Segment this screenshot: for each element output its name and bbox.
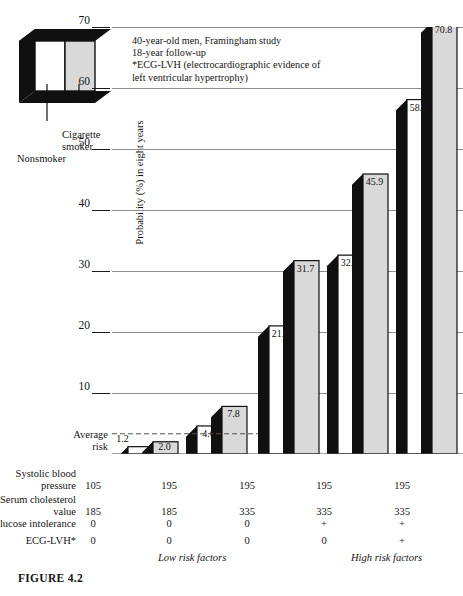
y-tick-rule-20 xyxy=(92,332,110,333)
table-cell-r1-c2: 335 xyxy=(227,506,267,517)
bar-value-nonsmoker-group-1: 1.2 xyxy=(110,433,135,444)
y-tick-rule-50 xyxy=(92,149,110,150)
table-cell-r0-c4: 195 xyxy=(382,480,422,491)
y-tick-label-20: 20 xyxy=(64,319,90,331)
table-cell-r1-c1: 185 xyxy=(149,506,189,517)
average-risk-label-line1: Average xyxy=(56,429,108,441)
table-cell-r0-c3: 195 xyxy=(304,480,344,491)
low-risk-factors-label: Low risk factors xyxy=(158,552,226,563)
y-tick-label-30: 30 xyxy=(64,258,90,270)
y-tick-label-60: 60 xyxy=(64,75,90,87)
bar-value-cigarette-smoker-group-2: 7.8 xyxy=(221,408,246,419)
average-risk-label-line2: risk xyxy=(56,441,108,453)
table-cell-r3-c4: + xyxy=(382,535,422,546)
table-cell-r2-c1: 0 xyxy=(149,518,189,529)
table-cell-r2-c0: 0 xyxy=(73,518,113,529)
table-cell-r3-c0: 0 xyxy=(73,535,113,546)
y-tick-rule-30 xyxy=(92,271,110,272)
table-cell-r1-c3: 335 xyxy=(304,506,344,517)
bar-group-container xyxy=(112,27,463,454)
table-cell-r2-c3: + xyxy=(304,518,344,529)
plot-area: 40-year-old men, Framingham study 18-yea… xyxy=(112,27,463,454)
table-row-label-1: Serum cholesterolvalue xyxy=(0,494,76,518)
y-tick-rule-40 xyxy=(92,210,110,211)
table-row-label-0: Systolic bloodpressure xyxy=(16,468,76,492)
table-cell-r0-c0: 105 xyxy=(73,480,113,491)
bar-value-nonsmoker-group-5: 58.1 xyxy=(406,102,431,113)
y-tick-rule-60 xyxy=(92,88,110,89)
table-cell-r3-c3: 0 xyxy=(304,535,344,546)
table-cell-r2-c4: + xyxy=(382,518,422,529)
bar-value-cigarette-smoker-group-5: 70.8 xyxy=(431,24,456,35)
y-tick-label-40: 40 xyxy=(64,197,90,209)
y-tick-label-10: 10 xyxy=(64,380,90,392)
figure-4-2: Cigarette smoker Nonsmoker 40-year-old m… xyxy=(0,0,463,596)
y-tick-rule-10 xyxy=(92,393,110,394)
high-risk-factors-label: High risk factors xyxy=(351,552,422,563)
bar-cigarette-smoker-group-3 xyxy=(283,261,319,454)
bar-value-cigarette-smoker-group-4: 45.9 xyxy=(362,176,387,187)
y-tick-label-50: 50 xyxy=(64,136,90,148)
table-cell-r1-c4: 335 xyxy=(382,506,422,517)
table-cell-r3-c2: 0 xyxy=(227,535,267,546)
figure-caption: FIGURE 4.2 xyxy=(18,572,83,584)
table-cell-r1-c0: 185 xyxy=(73,506,113,517)
table-cell-r2-c2: 0 xyxy=(227,518,267,529)
bar-value-nonsmoker-group-3: 21.0 xyxy=(268,328,293,339)
y-tick-rule-70 xyxy=(92,27,110,28)
legend-label-nonsmoker: Nonsmoker xyxy=(17,153,66,165)
y-tick-label-70: 70 xyxy=(64,14,90,26)
table-row-label-2: Glucose intolerance xyxy=(0,518,76,530)
table-cell-r0-c2: 195 xyxy=(227,480,267,491)
bar-value-cigarette-smoker-group-3: 31.7 xyxy=(293,263,318,274)
bar-value-nonsmoker-group-2: 4.6 xyxy=(196,428,221,439)
bar-cigarette-smoker-group-4 xyxy=(352,174,388,454)
table-cell-r3-c1: 0 xyxy=(149,535,189,546)
bar-value-nonsmoker-group-4: 32.6 xyxy=(337,257,362,268)
table-row-label-3: ECG-LVH* xyxy=(26,535,76,547)
table-cell-r0-c1: 195 xyxy=(149,480,189,491)
bar-cigarette-smoker-group-5 xyxy=(421,27,457,454)
bar-value-cigarette-smoker-group-1: 2.0 xyxy=(152,441,177,452)
